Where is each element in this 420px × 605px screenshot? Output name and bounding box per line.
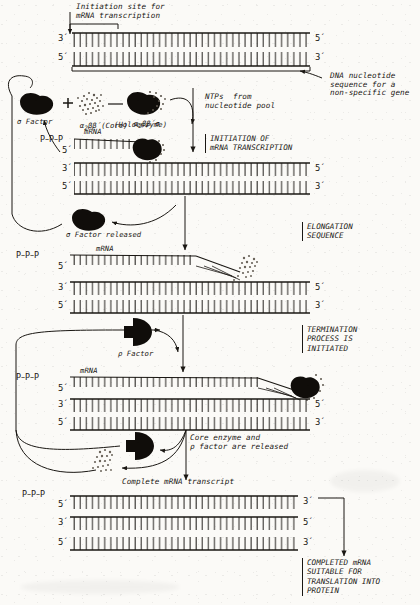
rho-released-glyph (126, 432, 154, 460)
panel4-right-5prime: 5´ (315, 399, 325, 409)
sigma-released-label: σ Factor released (66, 231, 141, 239)
rna-polymerase-glyph-initiation (133, 139, 162, 161)
dna-rungs-upper-termination (70, 399, 310, 412)
dna-sequence-label: DNA nucleotide sequence for a non-specif… (330, 72, 409, 98)
bubble-rungs (196, 266, 240, 280)
panel4-left-3prime: 3´ (58, 399, 68, 409)
complete-transcript-label: Complete mRNA transcript (122, 478, 234, 487)
panel2-left-3prime: 3´ (62, 163, 72, 173)
dna-label-pointer (300, 71, 322, 78)
sigma-released-group (72, 196, 185, 250)
rho-release-arrow (160, 430, 186, 450)
stage-initiation: INITIATION OF mRNA TRANSCRIPTION (205, 134, 292, 153)
panel5-left-3prime: 3´ (58, 517, 68, 527)
panel2-left-5prime: 5´ (62, 181, 72, 191)
dna-rungs-lower-complete (70, 537, 298, 550)
core-rho-released-label: Core enzyme and ρ factor are released (190, 434, 288, 451)
rho-factor-label: ρ Factor (118, 350, 153, 358)
panel1-left-5prime: 5´ (58, 52, 68, 62)
mrna-rungs-complete (70, 496, 298, 509)
sigma-recycle-loop-bottom (12, 214, 62, 231)
ppp-initiation: P–P–P (40, 134, 63, 144)
panel1-right-5prime: 5´ (315, 33, 325, 43)
rho-factor-glyph (124, 318, 152, 346)
panel-3-elongation (70, 255, 310, 313)
scan-smudge (330, 470, 400, 492)
rna-polymerase-glyph-elongation (233, 255, 258, 281)
dna-rungs-lower (72, 52, 310, 66)
panel3-left-5prime: 5´ (58, 300, 68, 310)
dna-rungs-upper-complete (70, 517, 298, 530)
panel5-right-5prime: 5´ (303, 517, 313, 527)
mrna-label-initiation: mRNA (84, 128, 102, 136)
panel4-left-5prime: 5´ (58, 417, 68, 427)
holoenzyme-binding-arrow (170, 98, 193, 124)
dna-rungs-upper (72, 33, 310, 47)
panel5-left-5prime: 5´ (58, 499, 68, 509)
dna-rungs-upper-initiation (74, 163, 310, 176)
panel3-left-3prime: 3´ (58, 282, 68, 292)
core-recycle-loop (16, 345, 120, 449)
panel2-right-3prime: 3´ (315, 181, 325, 191)
dna-rungs-lower-termination (70, 417, 310, 430)
core-enzyme-released-glyph (92, 449, 113, 472)
plus-sign (63, 98, 73, 108)
ppp-elongation: P–P–P (16, 250, 39, 260)
panel3-left-5prime-mrna: 5´ (58, 261, 68, 271)
panel-4-termination (70, 374, 324, 430)
sigma-factor-glyph (20, 93, 53, 115)
panel2-right-5prime: 5´ (315, 163, 325, 173)
mrna-peel-line (196, 256, 240, 272)
panel4-right-3prime: 3´ (315, 417, 325, 427)
panel1-left-3prime: 3´ (58, 33, 68, 43)
dna-rungs-upper-elongation (70, 282, 310, 295)
stage-termination: TERMINATION PROCESS IS INITIATED (302, 325, 357, 353)
rho-binding-arrow (154, 330, 178, 352)
rho-recycle-loop (16, 430, 96, 472)
initiation-site-label: Initiation site for mRNA transcription (76, 3, 165, 20)
scan-smudge-bottom (20, 580, 180, 594)
core-enzyme-glyph (77, 92, 104, 115)
release-group (16, 345, 186, 480)
ntps-label: NTPs from nucleotide pool (205, 93, 275, 110)
sigma-release-arrow (112, 205, 176, 225)
stage-completed: COMPLETED mRNA SUITABLE FOR TRANSLATION … (302, 558, 380, 596)
dna-rungs-lower-initiation (74, 181, 310, 194)
panel3-right-3prime: 3´ (315, 300, 325, 310)
completed-mrna-arrow (318, 498, 344, 556)
stage-elongation: ELONGATION SEQUENCE (302, 222, 353, 241)
sigma-factor-label: σ Factor (17, 118, 52, 126)
panel5-left-5prime-lower: 5´ (58, 537, 68, 547)
rna-polymerase-glyph-termination (291, 377, 320, 399)
panel5-right-3prime-lower: 3´ (303, 537, 313, 547)
panel4-left-5prime-mrna: 5´ (58, 383, 68, 393)
panel2-left-5prime-mrna: 5´ (62, 145, 72, 155)
ppp-termination: P–P–P (16, 372, 39, 382)
figure-sheet: Initiation site for mRNA transcription 3… (0, 0, 420, 605)
mrna-label-termination: mRNA (80, 367, 98, 375)
dna-rungs-lower-elongation (70, 300, 310, 313)
panel-1-template-dna (70, 12, 322, 78)
holoenzyme-label: (Holoenzyme) (114, 121, 167, 129)
mrna-rungs-termination (70, 377, 258, 387)
mrna-rungs-elongation (70, 255, 195, 265)
sigma-recycle-loop-top (8, 76, 32, 96)
ppp-complete: P–P–P (22, 489, 45, 499)
panel5-right-3prime: 3´ (303, 496, 313, 506)
panel3-right-5prime: 5´ (315, 282, 325, 292)
mrna-label-elongation: mRNA (96, 245, 114, 253)
rho-factor-group (16, 315, 183, 372)
panel1-right-3prime: 3´ (315, 52, 325, 62)
sigma-released-glyph (72, 209, 105, 231)
